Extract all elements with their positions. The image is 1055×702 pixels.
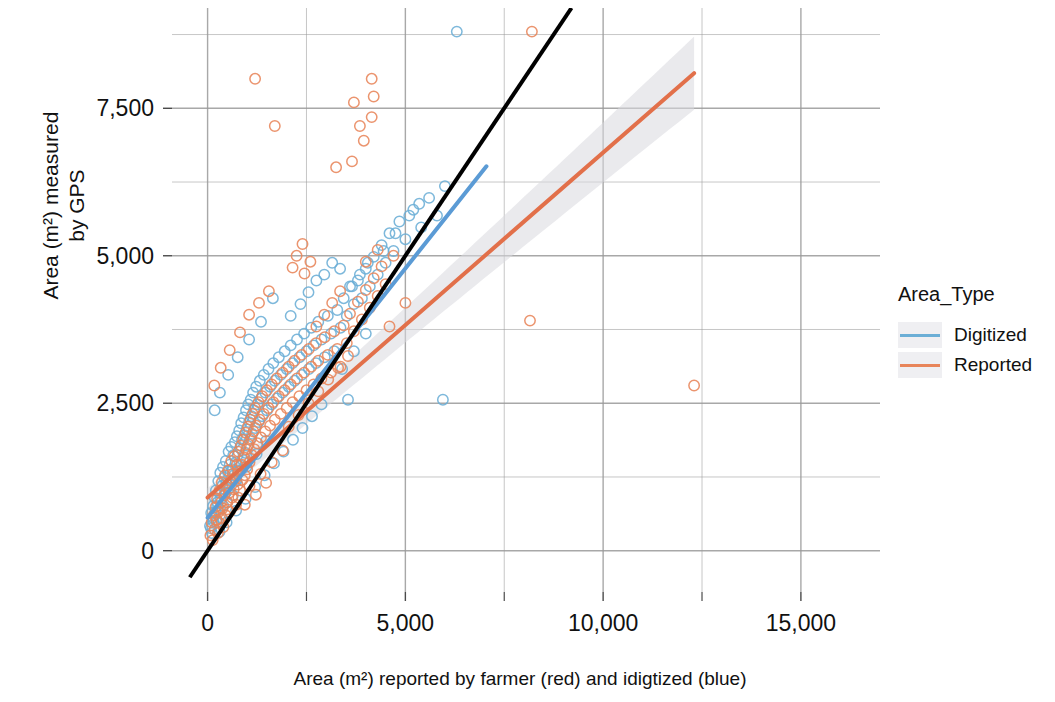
legend-title: Area_Type xyxy=(898,283,1048,306)
legend-swatch-digitized xyxy=(898,322,942,348)
x-tick-label: 15,000 xyxy=(731,610,871,637)
legend-label: Reported xyxy=(954,354,1032,376)
y-tick-label: 7,500 xyxy=(54,95,154,122)
legend-swatch-reported xyxy=(898,352,942,378)
legend-entries: DigitizedReported xyxy=(898,320,1048,380)
legend: Area_Type DigitizedReported xyxy=(898,283,1048,380)
x-axis-title: Area (m²) reported by farmer (red) and i… xyxy=(140,668,900,690)
series-digitized-points xyxy=(205,26,462,538)
x-tick-label: 5,000 xyxy=(335,610,475,637)
regression-line-reported xyxy=(208,73,695,497)
plot-area xyxy=(0,0,1055,702)
y-tick-label: 2,500 xyxy=(54,390,154,417)
reference-line-one-to-one xyxy=(190,8,572,577)
scatter-plot xyxy=(0,0,1055,702)
chart-root: Area (m²) measured by GPS 02,5005,0007,5… xyxy=(0,0,1055,702)
y-tick-label: 5,000 xyxy=(54,242,154,269)
x-tick-label: 10,000 xyxy=(533,610,673,637)
legend-item-digitized[interactable]: Digitized xyxy=(898,320,1048,350)
legend-label: Digitized xyxy=(954,324,1027,346)
y-tick-label: 0 xyxy=(54,537,154,564)
legend-item-reported[interactable]: Reported xyxy=(898,350,1048,380)
x-tick-label: 0 xyxy=(138,610,278,637)
